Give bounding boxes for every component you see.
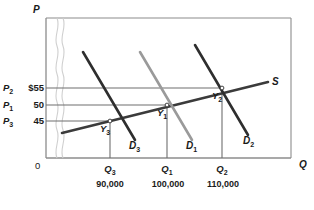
curve-label-D1: D1 (186, 141, 197, 153)
quantity-value-q1: 100,000 (139, 180, 197, 189)
price-axis-label: P (33, 5, 40, 15)
supply-demand-figure: P Q 0 P2 $55 P1 50 P3 45 Q3 90,000 Q1 10… (0, 0, 314, 210)
quantity-symbol-q2-sub: 2 (224, 169, 228, 176)
price-symbol-p1-sub: 1 (9, 105, 13, 112)
quantity-symbol-q1-letter: Q (161, 163, 168, 174)
price-symbol-p1: P1 (3, 100, 13, 112)
quantity-symbol-q2-letter: Q (216, 163, 223, 174)
price-symbol-p3: P3 (3, 116, 13, 128)
quantity-symbol-q3-sub: 3 (112, 169, 116, 176)
quantity-value-q3: 90,000 (83, 180, 137, 189)
price-value-p2: $55 (20, 83, 44, 93)
equilibrium-label-Y1-sub: 1 (163, 113, 167, 120)
origin-label: 0 (35, 161, 40, 171)
quantity-symbol-q1: Q1 (156, 164, 178, 176)
quantity-symbol-q2: Q2 (211, 164, 233, 176)
curve-label-D1-sub: 1 (193, 146, 197, 153)
curve-label-D3: D3 (129, 141, 140, 153)
quantity-axis-label: Q (299, 160, 307, 170)
price-symbol-p3-sub: 3 (9, 121, 13, 128)
quantity-symbol-q1-sub: 1 (169, 169, 173, 176)
equilibrium-label-Y1: Y1 (157, 108, 167, 120)
quantity-value-q2: 110,000 (194, 180, 252, 189)
equilibrium-label-Y2-sub: 2 (218, 96, 222, 103)
curve-label-D2-sub: 2 (250, 141, 254, 148)
quantity-symbol-q3: Q3 (99, 164, 121, 176)
price-symbol-p2-sub: 2 (9, 88, 13, 95)
equilibrium-label-Y2: Y2 (212, 91, 222, 103)
equilibrium-label-Y3-sub: 3 (106, 129, 110, 136)
price-value-p1: 50 (20, 100, 44, 110)
equilibrium-label-Y3: Y3 (100, 124, 110, 136)
curve-label-D2: D2 (243, 136, 254, 148)
price-symbol-p2: P2 (3, 83, 13, 95)
quantity-symbol-q3-letter: Q (104, 163, 111, 174)
curve-label-S-letter: S (272, 76, 279, 87)
curve-label-S: S (272, 77, 279, 87)
demand-curve-D1 (140, 52, 192, 140)
price-value-p3: 45 (20, 116, 44, 126)
curve-label-D3-sub: 3 (136, 146, 140, 153)
